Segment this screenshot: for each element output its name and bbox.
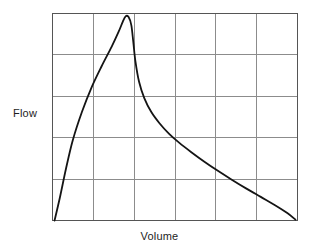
y-axis-label: Flow [13, 107, 37, 120]
x-axis-label: Volume [0, 230, 319, 243]
grid-lines [53, 14, 298, 221]
plot-canvas [0, 0, 319, 249]
flow-volume-chart: Flow Volume [0, 0, 319, 249]
